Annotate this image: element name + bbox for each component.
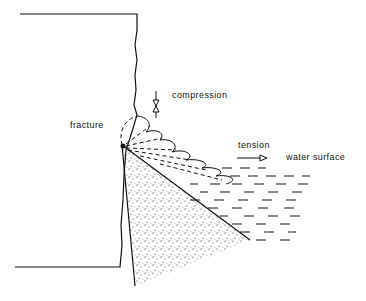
fracture-diagram: compression fracture tension water surfa… [0,0,366,301]
compression-arrow-icon [153,91,159,118]
water-surface-label: water surface [285,152,345,162]
fracture-label: fracture [70,120,104,130]
solid-block-outline [15,14,137,267]
fracture-origin [121,144,126,149]
stippled-fracture-zone [122,145,250,286]
tension-arrow-icon [237,155,267,161]
tension-label: tension [238,140,270,150]
compression-label: compression [172,90,227,100]
